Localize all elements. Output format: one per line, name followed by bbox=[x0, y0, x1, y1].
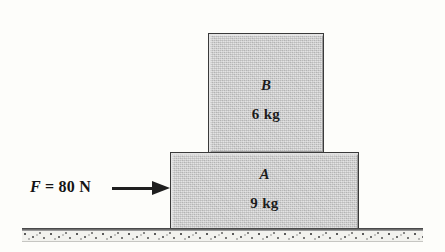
force-arrow-shaft bbox=[112, 187, 157, 190]
ground-hatching bbox=[22, 231, 423, 242]
block-b: B 6 kg bbox=[208, 33, 324, 153]
force-arrow-head-icon bbox=[152, 181, 170, 195]
block-b-name-label: B bbox=[209, 77, 323, 94]
ground-surface bbox=[22, 228, 423, 241]
block-a-mass-label: 9 kg bbox=[171, 195, 358, 212]
block-a-name-label: A bbox=[171, 166, 358, 183]
force-value: = 80 N bbox=[41, 178, 91, 195]
block-a: A 9 kg bbox=[170, 152, 359, 231]
force-label: F = 80 N bbox=[30, 178, 91, 196]
physics-diagram: B 6 kg A 9 kg F = 80 N bbox=[0, 0, 445, 252]
force-symbol: F bbox=[30, 178, 41, 195]
block-b-mass-label: 6 kg bbox=[209, 106, 323, 123]
